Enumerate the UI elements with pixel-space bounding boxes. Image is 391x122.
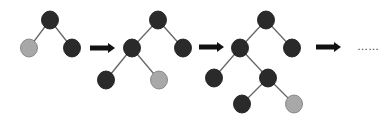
tree-node [64,39,81,57]
right-arrow-icon [90,43,115,53]
tree-node [42,11,59,29]
tree-node [232,39,249,57]
tree-node [175,39,192,57]
tree-node [150,11,167,29]
leaf-node [151,71,168,89]
tree-growth-diagram [0,0,391,122]
tree-node [98,71,115,89]
tree-node [234,95,251,113]
right-arrow-icon [316,42,341,52]
tree-node [284,39,301,57]
tree-node [206,69,223,87]
tree-node [258,11,275,29]
leaf-node [21,39,38,57]
continuation-ellipsis: …… [357,40,379,52]
tree-node [260,69,277,87]
nodes-layer [21,11,303,113]
edges-layer [29,20,294,104]
right-arrow-icon [199,42,224,52]
tree-node [124,39,141,57]
leaf-node [286,95,303,113]
